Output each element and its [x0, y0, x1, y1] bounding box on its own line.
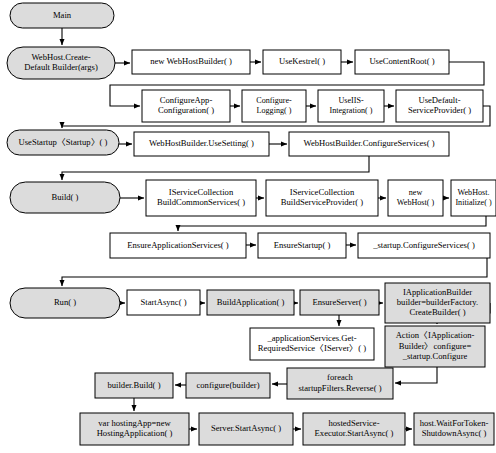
node-label-bconfigureserv: WebHostBuilder.ConfigureServices( )	[303, 138, 434, 148]
node-configurelog[interactable]: Configure-Logging( )	[242, 90, 306, 122]
node-label-actionconfigure: Action〈IApplication-Builder〉configure=_s…	[396, 330, 475, 360]
node-startasync[interactable]: StartAsync( )	[127, 290, 200, 315]
node-label-configurelog: Configure-Logging( )	[256, 96, 292, 115]
node-foreachfilters[interactable]: foreachstartupFilters.Reverse( )	[287, 368, 393, 399]
node-webhostinit[interactable]: WebHost.Initialize( )	[451, 180, 496, 216]
node-newbuilder[interactable]: new WebHostBuilder( )	[132, 50, 250, 74]
node-label-ensureserver: EnsureServer( )	[312, 296, 366, 306]
node-label-buildcommon: IServiceCollectionBuildCommonServices( )	[157, 187, 245, 207]
node-buildapplication[interactable]: BuildApplication( )	[207, 290, 294, 315]
node-label-serverstart: Server.StartAsync( )	[211, 423, 281, 433]
node-main[interactable]: Main	[10, 3, 114, 28]
node-configurebuilder[interactable]: configure(builder)	[186, 373, 270, 398]
node-builderbuild[interactable]: builder.Build( )	[95, 373, 173, 398]
node-label-usecontentroot: UseContentRoot( )	[369, 56, 434, 66]
node-label-newbuilder: new WebHostBuilder( )	[150, 56, 232, 66]
node-varhostingapp[interactable]: var hostingApp=newHostingApplication( )	[80, 413, 189, 445]
node-label-builderbuild: builder.Build( )	[108, 379, 161, 389]
node-usesetting[interactable]: WebHostBuilder.UseSetting( )	[134, 132, 269, 156]
node-useiis[interactable]: UseIIS-Integration( )	[318, 90, 384, 122]
node-iappbuilder[interactable]: IApplicationBuilderbuilder=builderFactor…	[385, 283, 490, 323]
node-usestartup[interactable]: UseStartup〈Startup〉( )	[7, 130, 119, 155]
node-usekestrel[interactable]: UseKestrel( )	[263, 50, 341, 74]
node-label-usekestrel: UseKestrel( )	[279, 56, 325, 66]
node-label-webhostinit: WebHost.Initialize( )	[455, 188, 491, 207]
node-label-getrequired: _applicationServices.Get-RequiredService…	[258, 333, 367, 353]
node-label-ensureappserv: EnsureApplicationServices( )	[127, 239, 229, 249]
node-run[interactable]: Run( )	[10, 288, 120, 318]
node-build[interactable]: Build( )	[10, 182, 120, 213]
node-label-createdefault: WebHost.Create-Default Builder(args)	[24, 52, 98, 72]
node-hostedservice[interactable]: hostedService-Executor.StartAsync( )	[303, 413, 405, 445]
node-usedefaultsp[interactable]: UseDefault-ServiceProvider( )	[396, 90, 483, 122]
node-createdefault[interactable]: WebHost.Create-Default Builder(args)	[7, 47, 115, 79]
node-label-ensurestartup: EnsureStartup( )	[274, 239, 331, 249]
node-buildcommon[interactable]: IServiceCollectionBuildCommonServices( )	[146, 180, 256, 216]
node-label-configurebuilder: configure(builder)	[197, 379, 260, 389]
node-label-configureapp: ConfigureApp-Configuration( )	[158, 95, 214, 115]
node-buildsp[interactable]: IServiceCollectionBuildServiceProvider( …	[266, 180, 378, 216]
node-label-varhostingapp: var hostingApp=newHostingApplication( )	[97, 418, 173, 438]
node-startupconfserv[interactable]: _startup.ConfigureServices( )	[358, 233, 490, 258]
node-ensureappserv[interactable]: EnsureApplicationServices( )	[110, 233, 246, 258]
node-ensureserver[interactable]: EnsureServer( )	[300, 290, 379, 315]
node-configureapp[interactable]: ConfigureApp-Configuration( )	[142, 90, 230, 122]
node-label-startasync: StartAsync( )	[140, 296, 186, 306]
node-label-usestartup: UseStartup〈Startup〉( )	[19, 136, 108, 146]
node-label-usesetting: WebHostBuilder.UseSetting( )	[149, 138, 254, 148]
node-ensurestartup[interactable]: EnsureStartup( )	[258, 233, 346, 258]
node-label-startupconfserv: _startup.ConfigureServices( )	[372, 239, 475, 249]
node-newwebhost[interactable]: newWebHost( )	[388, 180, 443, 216]
node-actionconfigure[interactable]: Action〈IApplication-Builder〉configure=_s…	[385, 326, 485, 367]
node-getrequired[interactable]: _applicationServices.Get-RequiredService…	[250, 328, 374, 360]
flowchart-canvas: MainWebHost.Create-Default Builder(args)…	[0, 0, 496, 453]
node-label-buildapplication: BuildApplication( )	[217, 296, 285, 306]
node-waitfortoken[interactable]: host.WaitForToken-ShutdownAsync( )	[414, 413, 494, 445]
node-usecontentroot[interactable]: UseContentRoot( )	[355, 50, 449, 74]
node-label-build: Build( )	[52, 191, 79, 201]
node-label-main: Main	[53, 9, 72, 19]
node-serverstart[interactable]: Server.StartAsync( )	[199, 413, 293, 445]
node-label-run: Run( )	[54, 297, 76, 307]
node-label-waitfortoken: host.WaitForToken-ShutdownAsync( )	[420, 418, 489, 438]
node-label-buildsp: IServiceCollectionBuildServiceProvider( …	[281, 187, 363, 207]
node-bconfigureserv[interactable]: WebHostBuilder.ConfigureServices( )	[289, 132, 449, 156]
